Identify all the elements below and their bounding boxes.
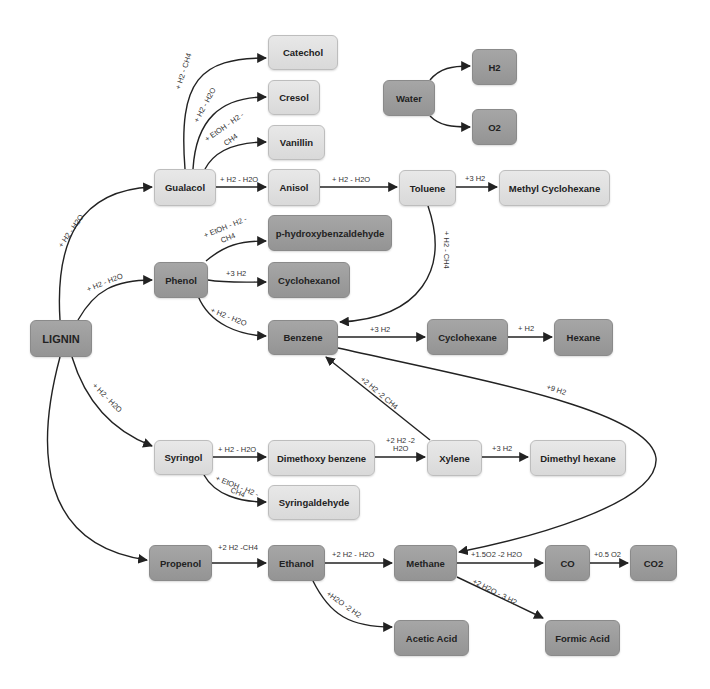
node-cyclohexanol: Cyclohexanol bbox=[268, 262, 350, 298]
edge-water-o2 bbox=[430, 116, 470, 127]
node-water: Water bbox=[383, 80, 435, 116]
node-syringol: Syringol bbox=[154, 440, 213, 475]
node-vanillin: Vanillin bbox=[268, 125, 325, 160]
label-guaiacol-catechol: + H2 - CH4 bbox=[173, 52, 193, 91]
label-benzene-methane: +9 H2 bbox=[545, 382, 567, 397]
node-acetic-acid: Acetic Acid bbox=[394, 620, 469, 656]
label-ethanol-acetic: +H2O -2 H2 bbox=[325, 589, 363, 619]
node-o2: O2 bbox=[472, 109, 517, 145]
node-anisol: Anisol bbox=[268, 169, 320, 206]
node-lignin: LIGNIN bbox=[30, 320, 92, 357]
label-cyclohexane-hexane: + H2 bbox=[518, 324, 534, 333]
node-toluene: Toluene bbox=[399, 170, 456, 206]
label-xylene-benzene: +2 H2 -2 CH4 bbox=[359, 375, 400, 412]
edge-xylene-benzene bbox=[326, 357, 430, 440]
node-p-hydroxybenzaldehyde: p-hydroxybenzaldehyde bbox=[268, 215, 392, 251]
label-syringol-dimethoxy: + H2 - H2O bbox=[218, 445, 256, 454]
label-methane-co: +1.5O2 -2 H2O bbox=[471, 550, 522, 559]
node-h2: H2 bbox=[472, 49, 517, 85]
label-guaiacol-cresol: + H2 - H2O bbox=[192, 86, 218, 124]
node-methyl-cyclohexane: Methyl Cyclohexane bbox=[499, 170, 610, 206]
edge-lignin-guaiacol bbox=[59, 187, 152, 320]
node-formic-acid: Formic Acid bbox=[545, 620, 620, 656]
label-xylene-dimethylhexane: +3 H2 bbox=[492, 444, 512, 453]
node-co: CO bbox=[545, 545, 590, 581]
label-co-co2: +0.5 O2 bbox=[594, 550, 621, 559]
label-ethanol-methane: +2 H2 - H2O bbox=[332, 550, 374, 559]
node-hexane: Hexane bbox=[554, 319, 613, 356]
label-methane-formic: +2 H2O - 3 H2 bbox=[471, 577, 518, 607]
edge-phenol-phydroxy bbox=[206, 241, 266, 261]
label-propenol-ethanol: +2 H2 -CH4 bbox=[218, 543, 258, 552]
label-toluene-benzene: + H2 - CH4 bbox=[442, 231, 451, 269]
label-anisol-toluene: + H2 - H2O bbox=[332, 175, 370, 184]
node-guaiacol: Gualacol bbox=[154, 169, 216, 206]
label-toluene-methylcyclohexane: +3 H2 bbox=[465, 174, 485, 183]
node-ethanol: Ethanol bbox=[268, 545, 325, 581]
node-catechol: Catechol bbox=[268, 35, 338, 70]
node-cresol: Cresol bbox=[268, 80, 320, 115]
label-benzene-cyclohexane: +3 H2 bbox=[370, 325, 390, 334]
node-co2: CO2 bbox=[630, 545, 677, 581]
node-dimethyl-hexane: Dimethyl hexane bbox=[530, 440, 626, 476]
node-cyclohexane: Cyclohexane bbox=[427, 319, 508, 355]
node-benzene: Benzene bbox=[268, 320, 338, 355]
node-methane: Methane bbox=[394, 545, 457, 581]
node-dimethoxy-benzene: Dimethoxy benzene bbox=[268, 440, 375, 476]
label-lignin-syringol: + H2 - H2O bbox=[91, 381, 124, 414]
edge-guaiacol-vanillin bbox=[205, 142, 266, 169]
edge-phenol-cyclohexanol bbox=[208, 280, 266, 282]
label-guaiacol-anisol: + H2 - H2O bbox=[220, 175, 258, 184]
lignin-pathway-diagram: + H2 - H2O + H2 - H2O + H2 - H2O + H2 - … bbox=[0, 0, 710, 689]
label-phenol-cyclohexanol: +3 H2 bbox=[226, 269, 246, 278]
label-lignin-guaiacol: + H2 - H2O bbox=[56, 213, 85, 250]
label-phenol-benzene: + H2 - H2O bbox=[209, 306, 248, 329]
label-dimethoxy-xylene-2: H2O bbox=[393, 444, 409, 453]
edge-water-h2 bbox=[430, 66, 470, 80]
node-xylene: Xylene bbox=[427, 440, 482, 476]
node-syringaldehyde: Syringaldehyde bbox=[268, 485, 360, 520]
node-propenol: Propenol bbox=[149, 545, 212, 581]
node-phenol: Phenol bbox=[154, 262, 208, 298]
